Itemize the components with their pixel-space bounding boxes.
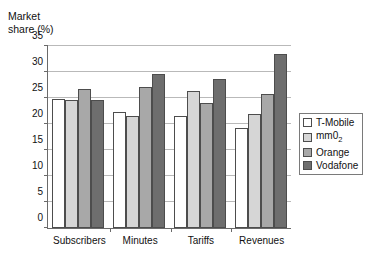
x-category-label: Revenues <box>239 235 284 246</box>
legend-swatch-icon <box>303 118 312 127</box>
y-axis-title: Market share (%) <box>8 10 54 35</box>
bar <box>174 116 187 228</box>
bar <box>152 74 165 228</box>
plot-area: 05101520253035 SubscribersMinutesTariffs… <box>47 46 291 229</box>
legend-item[interactable]: mm02 <box>303 130 358 145</box>
bar <box>274 54 287 228</box>
y-tick-label: 35 <box>32 30 43 41</box>
legend-item[interactable]: Orange <box>303 147 358 158</box>
bar <box>52 99 65 228</box>
x-category-label: Tariffs <box>188 235 215 246</box>
bar <box>91 100 104 228</box>
bar-groups <box>48 46 291 228</box>
bar <box>139 87 152 228</box>
legend: T-Mobilemm02OrangeVodafone <box>299 113 363 175</box>
bar <box>187 91 200 228</box>
legend-item-label: T-Mobile <box>316 117 354 128</box>
y-tick-label: 10 <box>32 160 43 171</box>
y-tick-label: 20 <box>32 108 43 119</box>
x-category-label: Subscribers <box>53 235 106 246</box>
bar <box>200 103 213 228</box>
bar-group <box>235 46 287 228</box>
legend-item-label: Vodafone <box>316 160 358 171</box>
legend-swatch-icon <box>303 133 312 142</box>
bar <box>213 79 226 228</box>
legend-swatch-icon <box>303 161 312 170</box>
bar <box>126 116 139 228</box>
y-tick-label: 30 <box>32 56 43 67</box>
x-tick-mark <box>110 228 111 232</box>
legend-item[interactable]: T-Mobile <box>303 117 358 128</box>
y-tick-label: 0 <box>37 212 43 223</box>
legend-swatch-icon <box>303 148 312 157</box>
bar-group <box>113 46 165 228</box>
bar-group <box>174 46 226 228</box>
bar-group <box>52 46 104 228</box>
bar <box>113 112 126 228</box>
x-category-label: Minutes <box>123 235 158 246</box>
bar <box>65 100 78 228</box>
x-tick-mark <box>231 228 232 232</box>
legend-item-label: Orange <box>316 147 349 158</box>
x-tick-mark <box>171 228 172 232</box>
bar <box>248 114 261 228</box>
bar <box>261 94 274 228</box>
y-tick-label: 15 <box>32 134 43 145</box>
legend-item-label: mm02 <box>316 130 342 145</box>
y-tick-label: 5 <box>37 186 43 197</box>
legend-item[interactable]: Vodafone <box>303 160 358 171</box>
bar <box>235 128 248 228</box>
y-tick-label: 25 <box>32 82 43 93</box>
bar <box>78 89 91 228</box>
